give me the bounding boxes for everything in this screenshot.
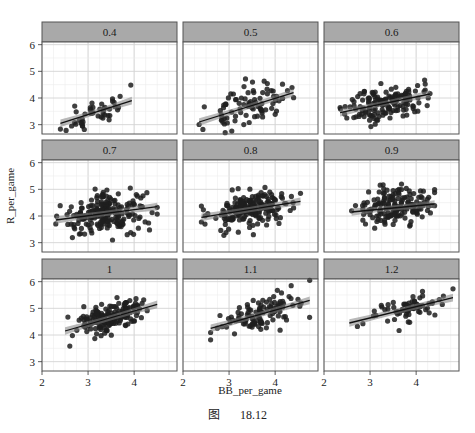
facet-panel-0.7: 0.7 (42, 140, 177, 252)
facet-strip-label: 0.4 (103, 26, 117, 38)
y-tick-label: 3 (30, 356, 36, 368)
figure-caption: 图 18.12 (0, 405, 475, 423)
facet-panel-0.5: 0.5 (183, 22, 318, 135)
y-tick-label: 5 (30, 302, 36, 314)
facet-panel-0.6: 0.6 (324, 22, 459, 134)
y-tick-label: 4 (30, 329, 36, 341)
caption-label: 图 (208, 405, 220, 423)
y-tick-label: 4 (30, 210, 36, 222)
y-tick-label: 6 (30, 276, 36, 288)
y-tick-label: 5 (30, 65, 36, 77)
facet-panel-0.4: 0.4 (42, 22, 177, 134)
x-tick-label: 3 (367, 376, 373, 388)
y-tick-label: 3 (30, 119, 36, 131)
facet-strip-label: 1.1 (244, 263, 258, 275)
x-tick-label: 2 (321, 376, 327, 388)
facet-panel-1: 1 (42, 259, 177, 371)
y-tick-label: 6 (30, 157, 36, 169)
facet-panel-0.8: 0.8 (183, 140, 318, 252)
facet-strip-label: 0.9 (385, 144, 399, 156)
facet-panel-1.2: 1.2 (324, 259, 459, 371)
facet-strip-label: 0.8 (244, 144, 258, 156)
x-tick-label: 2 (39, 376, 45, 388)
y-tick-label: 4 (30, 92, 36, 104)
y-axis: 345634563456 (30, 39, 43, 368)
panel-background (324, 279, 459, 371)
facet-strip-label: 0.5 (244, 26, 258, 38)
x-tick-label: 4 (131, 376, 137, 388)
y-tick-label: 5 (30, 183, 36, 195)
y-tick-label: 6 (30, 39, 36, 51)
facet-strip-label: 1 (107, 263, 113, 275)
faceted-scatter-chart: 0.40.50.60.70.80.911.11.2 345634563456 2… (0, 0, 475, 405)
x-tick-label: 3 (85, 376, 91, 388)
y-axis-title: R_per_game (4, 168, 16, 224)
facet-strip-label: 1.2 (385, 263, 399, 275)
x-axis-title: BB_per_game (218, 384, 282, 396)
caption-number: 18.12 (240, 408, 267, 423)
facet-panel-0.9: 0.9 (324, 140, 459, 252)
facet-strip-label: 0.7 (103, 144, 117, 156)
x-tick-label: 2 (180, 376, 186, 388)
facet-panels: 0.40.50.60.70.80.911.11.2 (42, 22, 459, 371)
x-tick-label: 4 (413, 376, 419, 388)
facet-panel-1.1: 1.1 (183, 259, 318, 371)
y-tick-label: 3 (30, 237, 36, 249)
facet-strip-label: 0.6 (385, 26, 399, 38)
